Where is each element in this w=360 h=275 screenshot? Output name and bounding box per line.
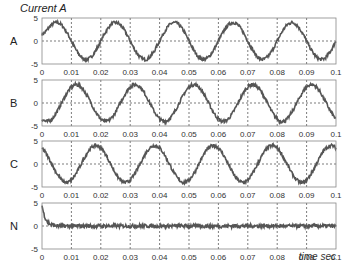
panel-n: 50-5N00.010.020.030.040.050.060.070.080.… <box>10 199 342 262</box>
svg-text:0.02: 0.02 <box>93 191 109 200</box>
svg-text:0.08: 0.08 <box>269 191 285 200</box>
svg-text:0.06: 0.06 <box>211 253 227 262</box>
svg-text:0.06: 0.06 <box>211 191 227 200</box>
svg-text:0.04: 0.04 <box>152 253 168 262</box>
svg-text:5: 5 <box>34 137 39 146</box>
svg-text:0.05: 0.05 <box>181 191 197 200</box>
svg-text:-5: -5 <box>31 122 39 131</box>
svg-text:-5: -5 <box>31 245 39 254</box>
svg-text:0.1: 0.1 <box>330 130 342 139</box>
panel-label: N <box>10 220 18 232</box>
svg-text:0.01: 0.01 <box>64 68 80 77</box>
svg-text:0.05: 0.05 <box>181 68 197 77</box>
svg-text:0.08: 0.08 <box>269 130 285 139</box>
svg-text:0.04: 0.04 <box>152 68 168 77</box>
svg-text:0.07: 0.07 <box>240 68 256 77</box>
svg-text:5: 5 <box>34 199 39 208</box>
svg-text:0: 0 <box>34 99 39 108</box>
svg-text:0: 0 <box>40 68 45 77</box>
panel-label: B <box>10 97 17 109</box>
svg-text:0.1: 0.1 <box>330 191 342 200</box>
svg-text:0.01: 0.01 <box>64 253 80 262</box>
svg-text:0.02: 0.02 <box>93 68 109 77</box>
panel-label: A <box>10 35 18 47</box>
panel-b: 50-5B00.010.020.030.040.050.060.070.080.… <box>10 76 342 139</box>
svg-text:0: 0 <box>40 253 45 262</box>
svg-text:0.04: 0.04 <box>152 130 168 139</box>
svg-text:0.03: 0.03 <box>122 253 138 262</box>
svg-text:0.09: 0.09 <box>299 130 315 139</box>
svg-text:0.08: 0.08 <box>269 68 285 77</box>
svg-text:0.01: 0.01 <box>64 191 80 200</box>
svg-text:0.06: 0.06 <box>211 130 227 139</box>
svg-text:0: 0 <box>34 37 39 46</box>
panel-c: 50-5C00.010.020.030.040.050.060.070.080.… <box>10 137 342 200</box>
svg-text:-5: -5 <box>31 60 39 69</box>
svg-text:0.1: 0.1 <box>330 68 342 77</box>
svg-text:0: 0 <box>34 160 39 169</box>
svg-text:0.05: 0.05 <box>181 253 197 262</box>
panel-label: C <box>10 158 18 170</box>
svg-text:0.07: 0.07 <box>240 253 256 262</box>
svg-text:0: 0 <box>40 191 45 200</box>
svg-text:0: 0 <box>34 222 39 231</box>
svg-text:0.07: 0.07 <box>240 130 256 139</box>
x-axis-label: time sec <box>299 251 336 262</box>
svg-text:0.02: 0.02 <box>93 130 109 139</box>
svg-text:0.08: 0.08 <box>269 253 285 262</box>
svg-text:0.03: 0.03 <box>122 68 138 77</box>
svg-text:0.03: 0.03 <box>122 130 138 139</box>
svg-text:0.07: 0.07 <box>240 191 256 200</box>
svg-text:0.04: 0.04 <box>152 191 168 200</box>
svg-text:0: 0 <box>40 130 45 139</box>
svg-text:0.05: 0.05 <box>181 130 197 139</box>
svg-text:0.03: 0.03 <box>122 191 138 200</box>
svg-text:5: 5 <box>34 76 39 85</box>
svg-text:0.09: 0.09 <box>299 68 315 77</box>
svg-text:5: 5 <box>34 14 39 23</box>
svg-text:0.06: 0.06 <box>211 68 227 77</box>
svg-text:-5: -5 <box>31 183 39 192</box>
svg-text:0.02: 0.02 <box>93 253 109 262</box>
panel-a: 50-5A00.010.020.030.040.050.060.070.080.… <box>10 14 342 77</box>
svg-text:0.01: 0.01 <box>64 130 80 139</box>
chart-figure: 50-5A00.010.020.030.040.050.060.070.080.… <box>0 0 360 275</box>
svg-text:0.09: 0.09 <box>299 191 315 200</box>
